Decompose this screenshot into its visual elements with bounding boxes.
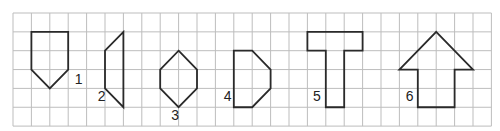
shape-label: 4: [224, 88, 232, 104]
shapes-on-grid-figure: 123456: [0, 0, 500, 131]
shape-label: 1: [75, 71, 83, 87]
shape-label: 3: [171, 107, 179, 123]
square-grid: [13, 13, 491, 126]
shape-label: 5: [313, 88, 321, 104]
shape-label: 2: [98, 88, 106, 104]
shape-label: 6: [406, 88, 414, 104]
